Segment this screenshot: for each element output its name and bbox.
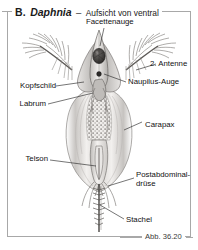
label-kopfschild: Kopfschild: [8, 81, 56, 90]
label-stachel: Stachel: [126, 215, 152, 224]
label-labrum: Labrum: [8, 99, 46, 108]
figure-panel: B. Daphnia – Aufsicht von ventral: [0, 0, 198, 250]
label-carapax: Carapax: [145, 120, 174, 129]
leader-labrum: [48, 93, 93, 104]
label-facettenauge: Facettenauge: [86, 17, 134, 26]
label-postabdominaldruese-line2: drüse: [136, 179, 156, 188]
leader-carapax: [124, 122, 142, 130]
label-postabdominaldruese-line1: Postabdominal-: [136, 170, 190, 179]
label-naupilus-auge: Naupilus-Auge: [128, 77, 179, 86]
leader-stachel: [100, 205, 124, 219]
leader-kopfschild: [56, 82, 84, 86]
leader-naupilus: [104, 74, 126, 82]
leader-postabd: [108, 178, 134, 186]
leader-facettenauge: [100, 28, 104, 46]
label-telson: Telson: [8, 154, 48, 163]
leader-telson: [50, 160, 96, 166]
label-antenne-2: 2. Antenne: [150, 59, 187, 68]
